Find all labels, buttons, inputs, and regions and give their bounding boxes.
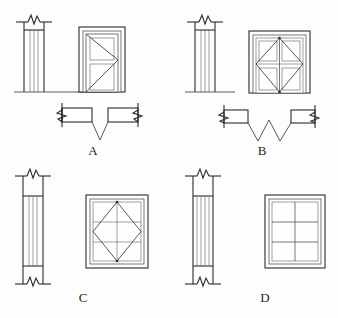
break-line-symbol bbox=[16, 15, 52, 24]
wall-section-b bbox=[185, 15, 235, 92]
break-line-symbol bbox=[57, 103, 66, 127]
door-elevation-a bbox=[79, 27, 125, 92]
figure-label-b: B bbox=[258, 143, 267, 158]
figure-d: D bbox=[185, 169, 325, 305]
break-line-symbol bbox=[187, 15, 223, 24]
figure-c: C bbox=[15, 169, 148, 305]
figure-a: A bbox=[14, 15, 142, 158]
door-elevation-b bbox=[249, 31, 310, 93]
break-line-symbol bbox=[185, 169, 221, 178]
figure-label-a: A bbox=[88, 143, 98, 158]
door-plan-b bbox=[219, 105, 319, 141]
window-section-d bbox=[185, 169, 221, 286]
symbol-drawing-canvas: A bbox=[0, 0, 338, 318]
window-section-c bbox=[15, 169, 51, 286]
break-line-symbol bbox=[15, 277, 51, 286]
door-plan-a bbox=[57, 103, 142, 140]
window-elevation-c bbox=[86, 195, 148, 268]
drawing-sheet: A bbox=[0, 0, 338, 318]
break-line-symbol bbox=[15, 169, 51, 178]
figure-label-c: C bbox=[79, 290, 88, 305]
figure-b: B bbox=[185, 15, 319, 158]
break-line-symbol bbox=[185, 277, 221, 286]
window-elevation-d bbox=[265, 195, 325, 268]
figure-label-d: D bbox=[260, 290, 269, 305]
